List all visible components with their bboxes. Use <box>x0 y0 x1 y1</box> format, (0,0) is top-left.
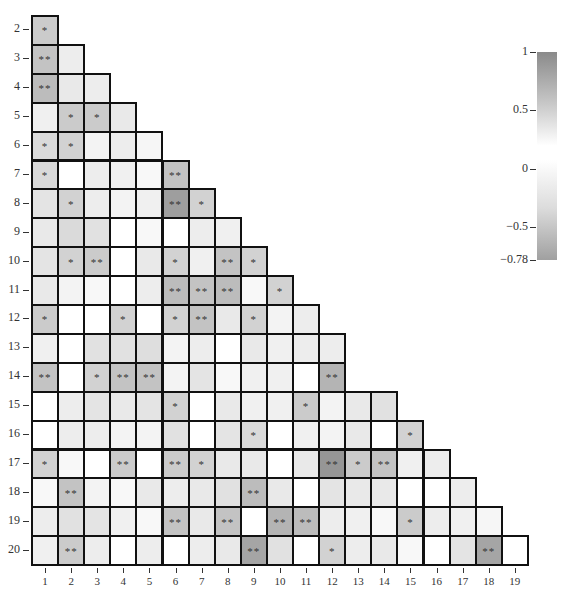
x-axis-label: 12 <box>322 575 342 587</box>
y-axis-tick <box>23 203 29 204</box>
heatmap-cell <box>57 420 85 451</box>
heatmap-cell <box>318 391 346 422</box>
heatmap-cell: * <box>162 304 190 335</box>
y-axis-label: 15 <box>2 397 20 412</box>
x-axis-label: 17 <box>453 575 473 587</box>
heatmap-cell <box>135 391 163 422</box>
heatmap-cell <box>449 506 477 537</box>
y-axis-tick <box>23 376 29 377</box>
heatmap-cell <box>83 506 111 537</box>
heatmap-cell <box>188 217 216 248</box>
heatmap-cell <box>188 535 216 566</box>
x-axis-tick <box>463 568 464 573</box>
y-axis-tick <box>23 405 29 406</box>
heatmap-cell <box>83 73 111 104</box>
x-axis-tick <box>123 568 124 573</box>
x-axis-tick <box>437 568 438 573</box>
y-axis-tick <box>23 87 29 88</box>
heatmap-cell <box>31 217 59 248</box>
y-axis-label: 11 <box>2 282 20 297</box>
heatmap-cell <box>109 391 137 422</box>
heatmap-cell: ** <box>135 362 163 393</box>
heatmap-cell <box>57 449 85 480</box>
heatmap-cell: * <box>240 420 268 451</box>
heatmap-cell: * <box>31 304 59 335</box>
heatmap-cell: * <box>57 246 85 277</box>
heatmap-cell <box>188 477 216 508</box>
x-axis-tick <box>515 568 516 573</box>
heatmap-cell <box>344 420 372 451</box>
heatmap-cell: * <box>344 449 372 480</box>
x-axis-label: 15 <box>400 575 420 587</box>
x-axis-label: 18 <box>479 575 499 587</box>
heatmap-cell <box>240 333 268 364</box>
x-axis-label: 8 <box>218 575 238 587</box>
heatmap-cell <box>396 477 424 508</box>
heatmap-cell <box>423 506 451 537</box>
y-axis-label: 14 <box>2 368 20 383</box>
heatmap-cell <box>240 362 268 393</box>
heatmap-cell: ** <box>214 275 242 306</box>
heatmap-cell <box>109 535 137 566</box>
heatmap-cell <box>109 102 137 133</box>
heatmap-cell: ** <box>318 362 346 393</box>
heatmap-cell: ** <box>162 449 190 480</box>
y-axis-tick <box>23 347 29 348</box>
x-axis-label: 9 <box>244 575 264 587</box>
heatmap-cell <box>214 420 242 451</box>
heatmap-cell: ** <box>83 246 111 277</box>
heatmap-cell <box>135 506 163 537</box>
heatmap-cell <box>266 304 294 335</box>
heatmap-cell <box>423 535 451 566</box>
heatmap-cell <box>57 44 85 75</box>
heatmap-cell: ** <box>57 477 85 508</box>
x-axis-tick <box>202 568 203 573</box>
heatmap-cell: ** <box>318 449 346 480</box>
heatmap-cell <box>370 420 398 451</box>
y-axis-label: 2 <box>2 21 20 36</box>
x-axis-label: 19 <box>505 575 525 587</box>
heatmap-cell <box>318 506 346 537</box>
heatmap-cell <box>318 477 346 508</box>
x-axis-tick <box>384 568 385 573</box>
x-axis-tick <box>71 568 72 573</box>
heatmap-cell <box>109 246 137 277</box>
heatmap-cell: * <box>83 102 111 133</box>
heatmap-cell: * <box>57 131 85 162</box>
heatmap-cell <box>266 477 294 508</box>
heatmap-cell <box>57 506 85 537</box>
y-axis-tick <box>23 261 29 262</box>
y-axis-tick <box>23 145 29 146</box>
heatmap-cell <box>188 391 216 422</box>
heatmap-cell <box>266 449 294 480</box>
y-axis-tick <box>23 550 29 551</box>
x-axis-tick <box>306 568 307 573</box>
heatmap-cell <box>109 275 137 306</box>
heatmap-cell <box>292 304 320 335</box>
heatmap-cell <box>449 477 477 508</box>
heatmap-cell <box>344 391 372 422</box>
y-axis-label: 16 <box>2 426 20 441</box>
heatmap-cell: ** <box>162 506 190 537</box>
heatmap-cell <box>162 217 190 248</box>
heatmap-cell <box>135 304 163 335</box>
y-axis-tick <box>23 318 29 319</box>
heatmap-cell: * <box>31 449 59 480</box>
heatmap-cell: ** <box>475 535 503 566</box>
heatmap-cell <box>240 391 268 422</box>
heatmap-cell <box>109 506 137 537</box>
heatmap-cell <box>31 506 59 537</box>
heatmap-cell <box>214 535 242 566</box>
heatmap-cell <box>109 160 137 191</box>
heatmap-cell: ** <box>31 44 59 75</box>
heatmap-cell: ** <box>188 304 216 335</box>
x-axis-label: 7 <box>192 575 212 587</box>
heatmap-cell <box>214 362 242 393</box>
heatmap-cell: ** <box>370 449 398 480</box>
colorbar-label: −0.5 <box>468 219 528 234</box>
heatmap-cell <box>344 477 372 508</box>
y-axis-tick <box>23 463 29 464</box>
heatmap-cell: * <box>188 188 216 219</box>
x-axis-label: 5 <box>139 575 159 587</box>
heatmap-cell: * <box>292 391 320 422</box>
